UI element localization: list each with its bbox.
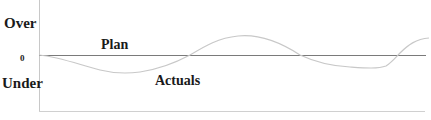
plan-series-label: Plan: [101, 37, 128, 53]
plan-vs-actuals-chart: Over 0 Under Plan Actuals: [0, 0, 431, 120]
actuals-series-label: Actuals: [155, 73, 200, 89]
y-label-zero: 0: [20, 53, 25, 63]
y-label-under: Under: [2, 75, 43, 92]
chart-plot-area: [0, 0, 431, 120]
y-label-over: Over: [4, 15, 36, 32]
actuals-line: [39, 36, 429, 73]
